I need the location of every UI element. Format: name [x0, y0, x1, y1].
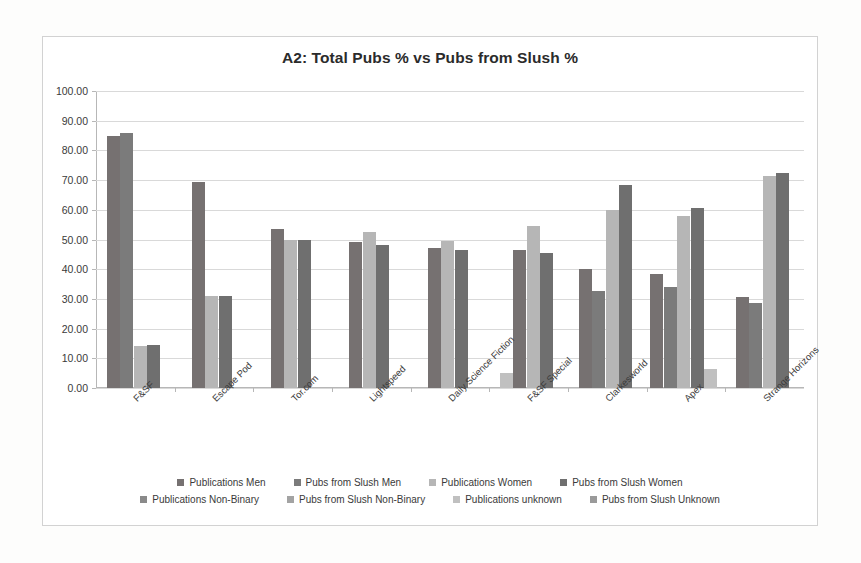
legend-label: Publications Non-Binary — [152, 494, 259, 505]
x-axis-group-separator — [647, 388, 648, 392]
legend-swatch-icon — [590, 496, 597, 503]
y-axis-tick-label: 30.00 — [62, 293, 88, 305]
legend-swatch-icon — [287, 496, 294, 503]
bar-group — [175, 91, 254, 388]
legend-swatch-icon — [177, 479, 184, 486]
bar — [664, 287, 677, 388]
bar — [376, 245, 389, 388]
bar — [192, 182, 205, 388]
bar — [271, 229, 284, 388]
bar — [592, 291, 605, 388]
bar — [677, 216, 690, 388]
legend-swatch-icon — [140, 496, 147, 503]
legend-label: Pubs from Slush Unknown — [602, 494, 720, 505]
legend-row: Publications Non-BinaryPubs from Slush N… — [43, 494, 817, 505]
bar — [349, 242, 362, 388]
chart-container: A2: Total Pubs % vs Pubs from Slush % 0.… — [42, 36, 818, 526]
bar — [298, 240, 311, 389]
legend-item[interactable]: Publications Non-Binary — [140, 494, 259, 505]
legend-item[interactable]: Publications Women — [429, 477, 532, 488]
y-axis-tick-mark — [92, 388, 96, 389]
y-axis-tick-label: 60.00 — [62, 204, 88, 216]
bar — [691, 208, 704, 388]
bar — [749, 303, 762, 388]
bar — [120, 133, 133, 388]
bar — [606, 210, 619, 388]
bar-group — [253, 91, 332, 388]
bar — [650, 274, 663, 388]
x-axis-group-separator — [332, 388, 333, 392]
bar-group — [725, 91, 804, 388]
bar — [107, 136, 120, 388]
x-axis-group-separator — [411, 388, 412, 392]
legend-swatch-icon — [453, 496, 460, 503]
y-axis-tick-label: 90.00 — [62, 115, 88, 127]
bar-group — [411, 91, 490, 388]
page-background: A2: Total Pubs % vs Pubs from Slush % 0.… — [0, 0, 861, 563]
x-axis-group-separator — [568, 388, 569, 392]
x-axis-group-separator — [253, 388, 254, 392]
legend-swatch-icon — [560, 479, 567, 486]
bar — [704, 369, 717, 388]
y-axis-tick-label: 70.00 — [62, 174, 88, 186]
y-axis-tick-label: 50.00 — [62, 234, 88, 246]
bar — [428, 248, 441, 388]
y-axis-tick-label: 80.00 — [62, 144, 88, 156]
bar — [284, 240, 297, 389]
bar — [513, 250, 526, 388]
legend-item[interactable]: Publications Men — [177, 477, 265, 488]
bar-group — [647, 91, 726, 388]
legend-row: Publications MenPubs from Slush MenPubli… — [43, 477, 817, 488]
bar-groups — [96, 91, 804, 388]
chart-title: A2: Total Pubs % vs Pubs from Slush % — [43, 49, 817, 67]
bar — [500, 373, 513, 388]
x-axis-group-separator — [175, 388, 176, 392]
legend-item[interactable]: Pubs from Slush Non-Binary — [287, 494, 425, 505]
bar — [736, 297, 749, 388]
bar — [455, 250, 468, 388]
x-axis-group-separator — [489, 388, 490, 392]
legend-swatch-icon — [294, 479, 301, 486]
bar-group — [96, 91, 175, 388]
bar — [441, 241, 454, 388]
bar — [763, 176, 776, 388]
legend-label: Publications Women — [441, 477, 532, 488]
bar-group — [332, 91, 411, 388]
legend-label: Pubs from Slush Women — [572, 477, 682, 488]
bar — [776, 173, 789, 388]
legend-label: Publications unknown — [465, 494, 562, 505]
y-axis-tick-label: 40.00 — [62, 263, 88, 275]
legend-item[interactable]: Pubs from Slush Women — [560, 477, 682, 488]
y-axis-tick-label: 10.00 — [62, 352, 88, 364]
chart-legend: Publications MenPubs from Slush MenPubli… — [43, 477, 817, 511]
bar — [527, 226, 540, 388]
legend-item[interactable]: Publications unknown — [453, 494, 562, 505]
legend-item[interactable]: Pubs from Slush Men — [294, 477, 402, 488]
x-axis-group-separator — [725, 388, 726, 392]
y-axis-tick-label: 0.00 — [68, 382, 88, 394]
bar — [579, 269, 592, 388]
bar — [619, 185, 632, 388]
bar — [205, 296, 218, 388]
legend-label: Pubs from Slush Men — [306, 477, 402, 488]
y-axis-tick-label: 100.00 — [56, 85, 88, 97]
bar-group — [568, 91, 647, 388]
legend-swatch-icon — [429, 479, 436, 486]
legend-label: Pubs from Slush Non-Binary — [299, 494, 425, 505]
bar — [363, 232, 376, 388]
plot-area: 0.0010.0020.0030.0040.0050.0060.0070.008… — [96, 91, 804, 388]
legend-item[interactable]: Pubs from Slush Unknown — [590, 494, 720, 505]
legend-label: Publications Men — [189, 477, 265, 488]
y-axis-tick-label: 20.00 — [62, 323, 88, 335]
